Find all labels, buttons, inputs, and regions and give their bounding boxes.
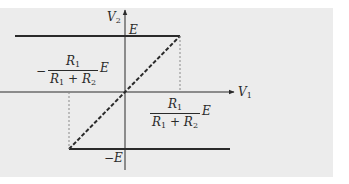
top-level-label: E xyxy=(129,24,138,36)
bottom-level-label: −E xyxy=(104,152,123,164)
denominator: R1 + R2 xyxy=(150,113,200,130)
factor: E xyxy=(202,104,211,118)
denominator: R1 + R2 xyxy=(48,70,98,87)
x-axis-label: V1 xyxy=(238,86,252,100)
y-axis-label: V2 xyxy=(107,11,121,25)
factor: E xyxy=(100,61,109,75)
transfer-characteristic-plot xyxy=(0,0,349,184)
left-threshold-label: − R1 R1 + R2 E xyxy=(36,54,109,87)
numerator: R1 xyxy=(166,97,184,113)
numerator: R1 xyxy=(64,54,82,70)
minus-sign: − xyxy=(36,64,46,78)
right-threshold-label: R1 R1 + R2 E xyxy=(150,97,211,130)
